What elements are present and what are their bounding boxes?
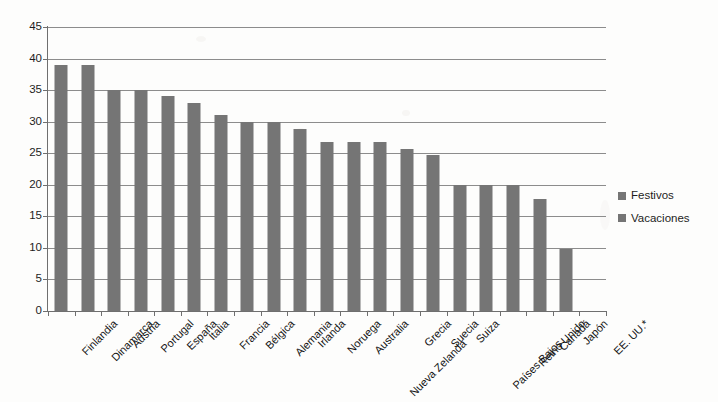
bar [267,122,280,311]
y-tick-label: 40 [2,53,42,65]
bar [533,199,546,311]
legend-label: Festivos [631,190,674,202]
x-tick-mark [234,311,235,316]
x-tick-mark [101,311,102,316]
x-tick-mark [75,311,76,316]
x-tick-mark [287,311,288,316]
y-axis: 051015202530354045 [0,0,42,402]
legend-swatch-icon [618,192,626,200]
bar-slot [526,27,553,311]
bar-slot [128,27,155,311]
y-tick-label: 10 [2,242,42,254]
x-tick-mark [340,311,341,316]
y-tick-label: 5 [2,273,42,285]
legend-item[interactable]: Vacaciones [618,213,714,225]
legend-label: Vacaciones [631,213,690,225]
x-axis-labels: FinlandiaDinamarcaAustriaPortugalEspañaI… [48,318,648,402]
bar-slot [48,27,75,311]
bar [453,185,466,311]
bar-slot [154,27,181,311]
x-tick-mark [526,311,527,316]
bar [214,115,227,311]
x-axis-category-label: EE. UU.* [612,318,651,357]
y-tick-label: 25 [2,147,42,159]
bar [108,90,121,311]
bar-slot [500,27,527,311]
bar-slot [473,27,500,311]
bar-chart: 051015202530354045 FinlandiaDinamarcaAus… [0,0,718,402]
bar [188,103,201,311]
x-tick-mark [207,311,208,316]
bar-slot [75,27,102,311]
bar [241,122,254,311]
x-tick-mark [553,311,554,316]
x-tick-mark [579,311,580,316]
x-tick-mark [314,311,315,316]
chart-legend: FestivosVacaciones [618,190,714,235]
bar-slot [207,27,234,311]
x-tick-mark [500,311,501,316]
bar-slot [420,27,447,311]
bar [294,129,307,311]
y-tick-label: 45 [2,21,42,33]
y-tick-label: 20 [2,179,42,191]
x-axis-category-label: Grecia [422,318,453,349]
bar [480,185,493,311]
bar-slot [367,27,394,311]
x-tick-mark [181,311,182,316]
bar-slot [393,27,420,311]
x-tick-mark [128,311,129,316]
bar [81,65,94,311]
x-tick-mark [367,311,368,316]
y-tick-label: 0 [2,305,42,317]
y-tick-label: 30 [2,116,42,128]
bar-slot [101,27,128,311]
bar [134,90,147,311]
bar [161,96,174,311]
x-tick-mark [420,311,421,316]
bar-slot [447,27,474,311]
bar-slot [234,27,261,311]
bar [347,142,360,311]
x-tick-mark [393,311,394,316]
bar-slot [314,27,341,311]
x-tick-mark [154,311,155,316]
bar [560,249,573,311]
bar-slot [579,27,606,311]
x-tick-mark [261,311,262,316]
bar-slot [340,27,367,311]
bar [506,185,519,311]
legend-swatch-icon [618,214,626,222]
y-tick-label: 35 [2,84,42,96]
bar [374,142,387,311]
bar-slot [553,27,580,311]
legend-item[interactable]: Festivos [618,190,714,202]
plot-area [48,27,606,311]
x-axis-category-label: Nueva Zelanda [408,338,469,399]
bar [320,142,333,311]
x-tick-mark [447,311,448,316]
x-tick-mark [48,311,49,316]
bar [427,155,440,311]
bar-slot [287,27,314,311]
bar-slot [181,27,208,311]
y-tick-label: 15 [2,210,42,222]
x-tick-mark [606,311,607,316]
bar [55,65,68,311]
bar-slot [261,27,288,311]
x-tick-mark [473,311,474,316]
x-axis-ticks [48,311,606,317]
bar [400,149,413,311]
